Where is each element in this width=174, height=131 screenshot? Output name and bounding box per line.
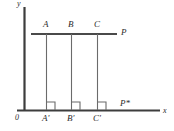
lower-line-label: P* <box>120 99 130 108</box>
right-angle-mark-a <box>47 102 56 110</box>
x-axis-label: x <box>163 107 167 115</box>
point-label-c-prime: C' <box>93 114 101 123</box>
origin-label: 0 <box>15 114 19 122</box>
point-label-a-prime: A' <box>42 114 49 123</box>
point-label-b: B <box>68 20 74 29</box>
geometry-figure: y x 0 P P* A B C A' B' C' <box>0 0 174 131</box>
right-angle-mark-c <box>98 102 107 110</box>
point-label-a: A <box>43 20 49 29</box>
point-label-c: C <box>94 20 100 29</box>
upper-line-label: P <box>121 28 127 37</box>
y-axis-label: y <box>17 0 21 8</box>
figure-canvas <box>0 0 174 131</box>
right-angle-mark-b <box>72 102 81 110</box>
point-label-b-prime: B' <box>67 114 74 123</box>
